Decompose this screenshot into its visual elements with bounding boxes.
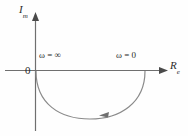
origin-label: 0 bbox=[25, 65, 31, 76]
imaginary-axis-label: Im bbox=[19, 4, 28, 18]
imaginary-axis-arrowhead bbox=[32, 12, 39, 21]
omega-infinity-label: ω = ∞ bbox=[39, 51, 61, 60]
nyquist-locus-curve bbox=[36, 71, 145, 119]
locus-direction-arrowhead bbox=[99, 112, 109, 118]
real-axis-arrowhead bbox=[159, 67, 168, 74]
omega-zero-label: ω = 0 bbox=[116, 51, 136, 60]
nyquist-plot-figure: Im Re 0 ω = ∞ ω = 0 bbox=[0, 0, 188, 136]
real-axis-label-base: R bbox=[170, 59, 177, 71]
real-axis-label-subscript: e bbox=[177, 68, 180, 76]
imaginary-axis-label-subscript: m bbox=[23, 12, 28, 20]
real-axis-label: Re bbox=[170, 60, 180, 74]
